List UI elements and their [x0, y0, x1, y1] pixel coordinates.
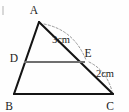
- geometry-canvas: A B C D E 3cm 2cm: [0, 0, 129, 112]
- vertex-label-b: B: [5, 100, 13, 112]
- vertex-label-a: A: [30, 4, 39, 16]
- figure-background: [0, 0, 129, 112]
- vertex-label-c: C: [106, 100, 114, 112]
- geometry-figure: A B C D E 3cm 2cm: [0, 0, 129, 112]
- scan-artifact-left: [2, 6, 4, 15]
- measure-label-ec: 2cm: [96, 68, 114, 79]
- vertex-label-d: D: [10, 52, 18, 64]
- measure-label-ae: 3cm: [52, 34, 70, 45]
- vertex-label-e: E: [84, 47, 91, 59]
